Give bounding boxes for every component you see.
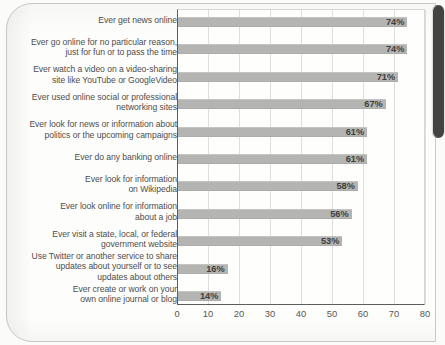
scanned-chart-page: 74%74%71%67%61%61%58%56%53%16%14% Ever g… (0, 0, 445, 345)
bar-value-label: 71% (368, 72, 395, 82)
x-tick-label: 20 (226, 308, 252, 319)
bar (178, 99, 386, 109)
bar-value-label: 61% (337, 127, 364, 137)
bar (178, 17, 407, 27)
book-binding-edge-core (433, 6, 444, 137)
bar-value-label: 56% (322, 209, 349, 219)
bar-value-label: 67% (356, 99, 383, 109)
category-label: Use Twitter or another service to share … (32, 251, 177, 282)
bar-value-label: 16% (198, 264, 225, 274)
x-tick-label: 70 (381, 308, 407, 319)
bar-value-label: 74% (377, 17, 404, 27)
bar-value-label: 53% (312, 236, 339, 246)
category-label: Ever visit a state, local, or federal go… (52, 229, 177, 250)
category-label: Ever do any banking online (75, 152, 177, 162)
category-label: Ever go online for no particular reason,… (31, 37, 177, 58)
x-tick-label: 30 (257, 308, 283, 319)
bar-value-label: 58% (328, 181, 355, 191)
horizontal-bar-chart: 74%74%71%67%61%61%58%56%53%16%14% Ever g… (0, 0, 445, 345)
gridline-80 (425, 10, 426, 304)
bar-value-label: 74% (377, 44, 404, 54)
x-tick-label: 80 (412, 308, 438, 319)
category-label: Ever get news online (98, 15, 177, 25)
category-label: Ever look for information on Wikipedia (85, 174, 177, 195)
plot-area: 74%74%71%67%61%61%58%56%53%16%14% (177, 9, 425, 305)
x-tick-label: 50 (319, 308, 345, 319)
bar (178, 44, 407, 54)
category-label: Ever look for news or information about … (29, 119, 177, 140)
bar (178, 72, 398, 82)
bar-value-label: 61% (337, 154, 364, 164)
category-label: Ever look online for information about a… (60, 201, 177, 222)
category-label: Ever used online social or professional … (32, 92, 177, 113)
bar-value-label: 14% (191, 291, 218, 301)
category-label: Ever create or work on your own online j… (73, 284, 177, 305)
x-tick-label: 40 (288, 308, 314, 319)
x-tick-label: 10 (195, 308, 221, 319)
x-tick-label: 0 (164, 308, 190, 319)
x-tick-label: 60 (350, 308, 376, 319)
category-label: Ever watch a video on a video-sharing si… (33, 64, 177, 85)
